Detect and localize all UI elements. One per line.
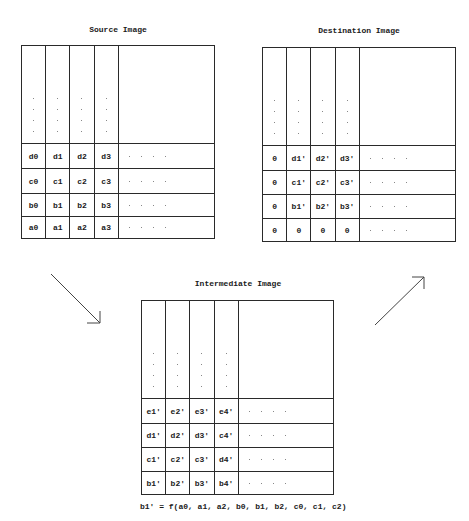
formula-caption: b1' = f(a0, a1, a2, b0, b1, b2, c0, c1, …: [140, 502, 346, 511]
arrow-up-right-icon: [375, 277, 424, 325]
arrow-down-right-icon: [51, 274, 100, 323]
arrows-layer: [0, 0, 469, 521]
